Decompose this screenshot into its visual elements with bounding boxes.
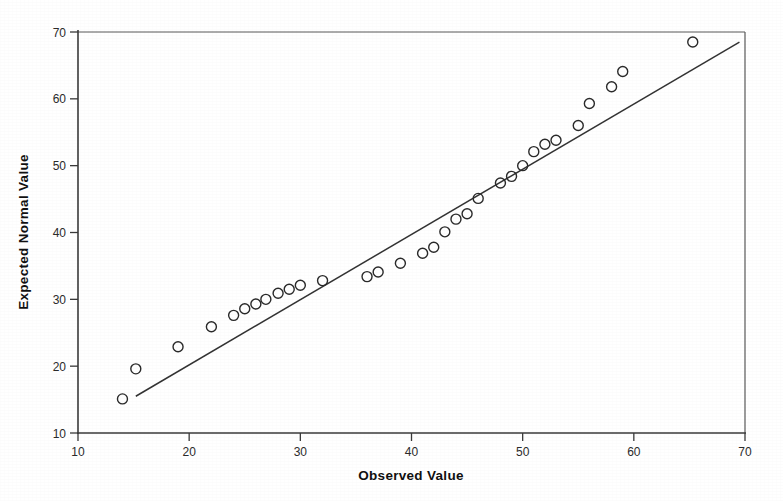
y-axis: 10203040506070 xyxy=(53,26,78,441)
y-tick-label: 20 xyxy=(53,360,67,374)
data-point xyxy=(688,37,698,47)
data-point xyxy=(229,310,239,320)
data-point xyxy=(618,66,628,76)
data-point xyxy=(451,214,461,224)
data-point xyxy=(362,272,372,282)
data-point xyxy=(261,294,271,304)
data-point xyxy=(551,135,561,145)
y-tick-label: 60 xyxy=(53,92,67,106)
data-point xyxy=(429,242,439,252)
data-point xyxy=(529,147,539,157)
x-tick-label: 50 xyxy=(516,445,530,459)
x-axis-title: Observed Value xyxy=(358,468,464,483)
y-tick-label: 40 xyxy=(53,226,67,240)
data-point xyxy=(440,227,450,237)
data-point xyxy=(573,121,583,131)
data-point xyxy=(607,82,617,92)
data-point xyxy=(540,139,550,149)
data-point xyxy=(173,342,183,352)
data-point xyxy=(131,364,141,374)
data-point xyxy=(284,284,294,294)
x-tick-label: 40 xyxy=(405,445,419,459)
data-point xyxy=(373,267,383,277)
y-axis-ticks: 10203040506070 xyxy=(53,26,78,441)
x-tick-label: 10 xyxy=(71,445,85,459)
data-point xyxy=(418,248,428,258)
plot-frame xyxy=(78,32,745,433)
data-point xyxy=(117,394,127,404)
y-tick-label: 70 xyxy=(53,26,67,40)
plot-canvas: 10203040506070 10203040506070 Observed V… xyxy=(0,0,783,501)
reference-line-segment xyxy=(136,42,740,396)
qq-plot-figure: 10203040506070 10203040506070 Observed V… xyxy=(0,0,783,501)
y-tick-label: 50 xyxy=(53,159,67,173)
x-axis: 10203040506070 xyxy=(71,433,752,459)
x-tick-label: 20 xyxy=(182,445,196,459)
data-point xyxy=(584,99,594,109)
data-point xyxy=(295,280,305,290)
data-point-series xyxy=(117,37,697,404)
data-point xyxy=(462,209,472,219)
x-tick-label: 70 xyxy=(738,445,752,459)
y-axis-title: Expected Normal Value xyxy=(16,154,31,310)
data-point xyxy=(273,288,283,298)
data-point xyxy=(318,276,328,286)
data-point xyxy=(251,299,261,309)
y-tick-label: 30 xyxy=(53,293,67,307)
x-tick-label: 30 xyxy=(294,445,308,459)
normal-reference-line xyxy=(136,42,740,396)
data-point xyxy=(206,322,216,332)
data-point xyxy=(240,304,250,314)
x-tick-label: 60 xyxy=(627,445,641,459)
data-point xyxy=(395,258,405,268)
y-tick-label: 10 xyxy=(53,427,67,441)
x-axis-ticks: 10203040506070 xyxy=(71,433,752,459)
